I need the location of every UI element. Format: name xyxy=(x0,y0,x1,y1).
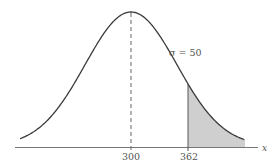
normal-distribution-chart: x 300 362 σ = 50 xyxy=(0,0,277,168)
x-axis-label: x xyxy=(262,143,267,153)
tick-label-mean: 300 xyxy=(122,151,140,162)
shaded-tail-area xyxy=(188,84,245,147)
sigma-label: σ = 50 xyxy=(169,47,202,58)
tick-label-cutoff: 362 xyxy=(180,151,198,162)
